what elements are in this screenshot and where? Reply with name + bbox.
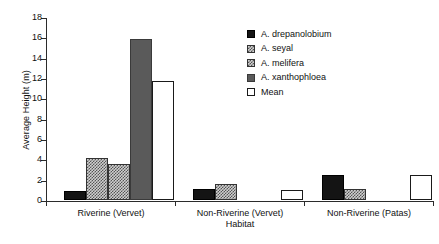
y-tick-label-10: 10 [32,93,42,104]
y-axis-line [46,18,47,202]
legend-label-a-melifera: A. melifera [261,58,304,69]
bar-riverine-vervet-a-seyal [86,158,108,200]
legend-white-swatch-icon [247,88,255,96]
bar-non-riverine-vervet-mean [281,190,303,200]
bar-non-riverine-vervet-a-drepanolobium [193,189,215,200]
y-tick-label-14: 14 [32,53,42,64]
legend-label-a-seyal: A. seyal [261,43,293,54]
legend-label-a-drepanolobium: A. drepanolobium [261,29,332,40]
x-category-label-riverine-vervet: Riverine (Vervet) [36,208,186,219]
y-tick-label-6: 6 [37,134,42,145]
bar-riverine-vervet-a-xanthophloea [130,39,152,200]
y-tick-label-18: 18 [32,12,42,23]
legend-solid-gray-swatch-icon [247,74,255,82]
x-tick-2 [304,201,305,206]
x-category-label-non-riverine-vervet: Non-Riverine (Vervet) [165,208,315,219]
bar-non-riverine-vervet-a-seyal [215,184,237,200]
y-tick-label-4: 4 [37,154,42,165]
legend-label-a-xanthophloea: A. xanthophloea [261,72,326,83]
y-tick-label-0: 0 [37,195,42,206]
legend-checker-swatch-icon-2 [247,59,255,67]
x-tick-start [46,201,47,206]
legend-solid-black-swatch-icon [247,30,255,38]
bar-riverine-vervet-a-melifera [108,164,130,200]
legend-item-mean: Mean [247,85,397,100]
y-axis-title: Average Height (m) [21,30,31,190]
legend-item-a-seyal: A. seyal [247,42,397,57]
x-tick-1 [175,201,176,206]
legend-item-a-melifera: A. melifera [247,56,397,71]
bar-riverine-vervet-mean [152,81,174,200]
legend-checker-swatch-icon [247,45,255,53]
y-tick-label-2: 2 [37,175,42,186]
x-axis-title: Habitat [46,219,434,230]
x-category-label-non-riverine-patas: Non-Riverine (Patas) [294,208,439,219]
bar-chart-figure: Average Height (m) 0 2 4 6 8 10 [0,0,439,244]
bar-non-riverine-patas-a-drepanolobium [322,175,344,200]
bar-riverine-vervet-a-drepanolobium [64,191,86,200]
bar-non-riverine-patas-mean [410,175,432,200]
bar-non-riverine-patas-a-seyal [344,189,366,200]
legend-item-a-drepanolobium: A. drepanolobium [247,27,397,42]
x-axis-line [46,201,434,202]
y-tick-label-12: 12 [32,73,42,84]
y-tick-label-8: 8 [37,114,42,125]
x-tick-end [433,201,434,206]
y-tick-label-16: 16 [32,32,42,43]
legend-label-mean: Mean [261,87,284,98]
legend-item-a-xanthophloea: A. xanthophloea [247,71,397,86]
legend: A. drepanolobium A. seyal A. melifera A.… [247,27,397,100]
